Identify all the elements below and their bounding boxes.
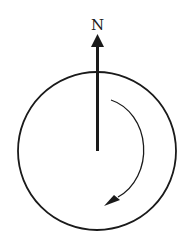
- north-label: N: [91, 16, 104, 34]
- north-arrow-icon: [91, 34, 104, 151]
- compass-diagram: N: [0, 0, 186, 247]
- clockwise-arrow-icon: [104, 100, 144, 206]
